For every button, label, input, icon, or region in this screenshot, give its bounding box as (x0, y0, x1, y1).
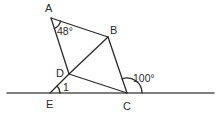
angle-label-C-exterior: 100° (133, 72, 155, 84)
point-label-C: C (123, 100, 131, 112)
segment-BC (108, 37, 127, 93)
geometry-diagram: A B D E C 48° 100° 1 (0, 0, 218, 114)
point-label-A: A (45, 2, 53, 14)
segment-DB (69, 37, 108, 74)
angle-label-A: 48° (57, 25, 73, 37)
point-label-B: B (110, 24, 117, 36)
point-label-E: E (46, 98, 53, 110)
segment-DC (69, 74, 127, 93)
angle-arc-1 (57, 86, 60, 93)
angle-label-1: 1 (63, 81, 69, 93)
point-label-D: D (56, 67, 64, 79)
